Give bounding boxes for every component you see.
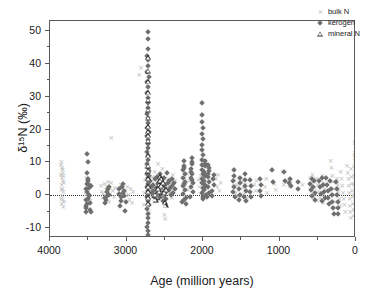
data-point-kerogen	[145, 165, 151, 171]
data-point-kerogen	[155, 181, 161, 187]
x-tick-label: 4000	[37, 244, 60, 256]
data-point-bulk-n: ×	[127, 196, 133, 203]
data-point-kerogen	[248, 194, 254, 200]
data-point-bulk-n: ×	[352, 198, 355, 205]
data-point-bulk-n: ×	[344, 162, 350, 169]
data-point-bulk-n: ×	[339, 183, 345, 190]
data-point-bulk-n: ×	[155, 161, 161, 168]
data-point-bulk-n: ×	[150, 185, 156, 192]
data-point-kerogen	[190, 189, 196, 195]
data-point-mineral-n	[155, 186, 161, 191]
data-point-kerogen	[330, 205, 336, 211]
data-point-kerogen	[163, 189, 169, 195]
figure-scatter-plot: δ¹⁵N (‰) -1001020304050 ××××××××××××××××…	[0, 0, 368, 305]
data-point-kerogen	[205, 174, 211, 180]
data-point-bulk-n: ×	[351, 182, 355, 189]
data-point-bulk-n: ×	[143, 163, 149, 170]
data-point-bulk-n: ×	[280, 169, 286, 176]
data-point-bulk-n: ×	[334, 175, 340, 182]
data-point-kerogen	[190, 180, 196, 186]
data-point-bulk-n: ×	[158, 180, 164, 187]
data-point-bulk-n: ×	[84, 188, 90, 195]
data-point-kerogen	[145, 145, 151, 151]
data-point-kerogen	[156, 188, 162, 194]
data-point-kerogen	[122, 208, 128, 214]
data-point-bulk-n: ×	[183, 182, 189, 189]
data-point-bulk-n: ×	[104, 184, 110, 191]
data-point-bulk-n: ×	[341, 196, 347, 203]
data-point-kerogen	[206, 165, 212, 171]
data-point-bulk-n: ×	[83, 191, 89, 198]
data-point-bulk-n: ×	[60, 166, 66, 173]
data-point-kerogen	[181, 165, 187, 171]
data-point-kerogen	[199, 180, 205, 186]
data-point-bulk-n: ×	[239, 179, 245, 186]
data-point-kerogen	[189, 159, 195, 165]
data-point-kerogen	[295, 179, 301, 185]
data-point-kerogen	[145, 84, 151, 90]
x-tick-minor	[240, 237, 241, 240]
data-point-kerogen	[144, 171, 150, 177]
y-tick-label: 10	[0, 155, 41, 167]
data-point-kerogen	[169, 183, 175, 189]
data-point-kerogen	[199, 112, 205, 118]
data-point-kerogen	[329, 199, 335, 205]
data-point-bulk-n: ×	[346, 183, 352, 190]
data-point-bulk-n: ×	[128, 186, 134, 193]
data-point-bulk-n: ×	[345, 169, 351, 176]
triangle-inner	[157, 183, 161, 186]
data-point-mineral-n	[145, 115, 151, 120]
triangle-inner	[146, 130, 150, 133]
data-point-bulk-n: ×	[202, 186, 208, 193]
x-tick	[126, 237, 127, 241]
data-point-bulk-n: ×	[254, 177, 260, 184]
data-point-kerogen	[312, 197, 318, 203]
data-point-kerogen	[83, 186, 89, 192]
data-point-bulk-n: ×	[136, 72, 142, 79]
data-point-bulk-n: ×	[58, 171, 64, 178]
data-point-bulk-n: ×	[352, 164, 355, 171]
data-point-kerogen	[161, 175, 167, 181]
data-point-kerogen	[243, 188, 249, 194]
data-point-bulk-n: ×	[157, 191, 163, 198]
triangle-icon	[316, 29, 325, 38]
data-point-bulk-n: ×	[339, 176, 345, 183]
triangle-inner	[161, 186, 165, 189]
data-point-bulk-n: ×	[328, 158, 334, 165]
data-point-kerogen	[324, 182, 330, 188]
data-point-bulk-n: ×	[129, 200, 135, 207]
data-point-bulk-n: ×	[351, 152, 355, 159]
data-point-bulk-n: ×	[99, 188, 105, 195]
data-point-kerogen	[170, 190, 176, 196]
data-point-mineral-n	[157, 184, 163, 189]
data-point-kerogen	[87, 207, 93, 213]
data-point-bulk-n: ×	[264, 189, 270, 196]
data-point-bulk-n: ×	[121, 190, 127, 197]
data-point-bulk-n: ×	[346, 189, 352, 196]
data-point-kerogen	[288, 183, 294, 189]
data-point-mineral-n	[163, 203, 169, 208]
data-point-kerogen	[334, 192, 340, 198]
data-point-kerogen	[181, 181, 187, 187]
triangle-inner	[160, 188, 164, 191]
data-point-kerogen	[205, 162, 211, 168]
data-point-mineral-n	[156, 183, 162, 188]
triangle-inner	[159, 178, 163, 181]
data-point-kerogen	[145, 211, 151, 217]
data-point-kerogen	[181, 158, 187, 164]
data-point-mineral-n	[145, 68, 151, 73]
data-point-bulk-n: ×	[351, 192, 355, 199]
data-point-bulk-n: ×	[153, 188, 159, 195]
y-tick-label: 0	[0, 188, 41, 200]
data-point-kerogen	[146, 202, 152, 208]
data-point-kerogen	[202, 158, 208, 164]
data-point-bulk-n: ×	[141, 202, 147, 209]
data-point-bulk-n: ×	[59, 192, 65, 199]
data-point-bulk-n: ×	[338, 169, 344, 176]
data-point-mineral-n	[145, 176, 151, 181]
data-point-kerogen	[144, 69, 150, 75]
data-point-kerogen	[145, 157, 151, 163]
triangle-inner	[146, 177, 150, 180]
data-point-kerogen	[335, 205, 341, 211]
data-point-mineral-n	[160, 185, 166, 190]
